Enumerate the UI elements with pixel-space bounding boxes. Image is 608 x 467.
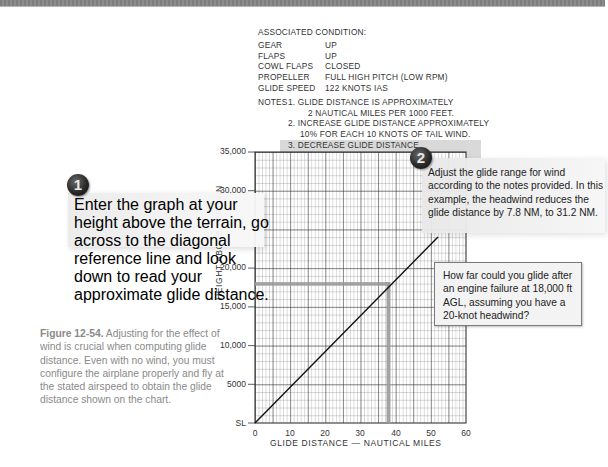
question-box: How far could you glide after an engine … (434, 262, 582, 326)
x-tick-label: 20 (315, 428, 335, 438)
x-tick-label: 50 (421, 428, 441, 438)
x-axis-label: GLIDE DISTANCE — NAUTICAL MILES (270, 438, 442, 448)
figure-caption-text: Adjusting for the effect of wind is cruc… (40, 328, 224, 405)
step-2-badge-icon: 2 (410, 147, 432, 169)
y-tick-label: 35,000 (196, 146, 246, 156)
callout-1-text: Enter the graph at your height above the… (74, 196, 270, 304)
callout-2-text: Adjust the glide range for wind accordin… (428, 166, 608, 220)
step-1-badge-icon: 1 (67, 174, 89, 196)
x-tick-label: 40 (386, 428, 406, 438)
y-tick-label: SL (196, 418, 246, 428)
x-tick-label: 30 (350, 428, 370, 438)
figure-label: Figure 12-54. (40, 328, 104, 339)
x-tick-label: 60 (456, 428, 476, 438)
x-tick-label: 10 (280, 428, 300, 438)
figure-caption: Figure 12-54. Adjusting for the effect o… (40, 327, 230, 407)
x-tick-label: 0 (245, 428, 265, 438)
